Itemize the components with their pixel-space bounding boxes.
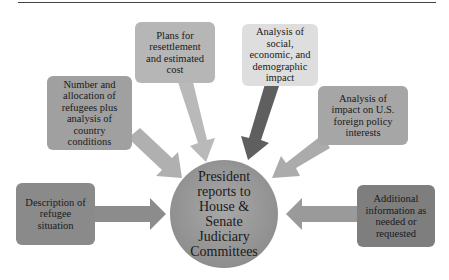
center-circle-line: President <box>190 169 258 184</box>
box-description-line: situation <box>25 220 85 232</box>
box-number-allocation: Number and allocation of refugees plus a… <box>47 76 132 150</box>
arrow-additional-info <box>286 198 358 230</box>
center-circle-line: Committees <box>190 244 258 259</box>
box-number-allocation-line: conditions <box>62 136 118 148</box>
box-social-economic-line: economic, and <box>249 49 310 61</box>
arrow-resettlement-plans <box>178 78 215 162</box>
center-circle-line: Senate <box>190 214 258 229</box>
arrow-description <box>95 198 166 230</box>
box-additional-info-line: Additional <box>366 193 427 205</box>
box-additional-info-line: information as <box>366 205 427 217</box>
box-number-allocation-line: Number and <box>62 79 118 91</box>
box-resettlement-plans: Plans for resettlement and estimated cos… <box>135 22 215 83</box>
box-foreign-policy-line: foreign policy <box>332 116 395 128</box>
box-number-allocation-line: analysis of <box>62 113 118 125</box>
arrow-social-economic <box>241 84 279 160</box>
box-number-allocation-line: allocation of <box>62 90 118 102</box>
box-resettlement-plans-line: cost <box>146 64 204 76</box>
box-number-allocation-line: country <box>62 125 118 137</box>
box-foreign-policy-line: Analysis of <box>332 93 395 105</box>
box-additional-info-line: needed or <box>366 216 427 228</box>
center-circle: President reports to House & Senate Judi… <box>170 160 278 268</box>
center-circle-line: Judiciary <box>190 229 258 244</box>
box-foreign-policy-line: interests <box>332 127 395 139</box>
center-circle-line: House & <box>190 199 258 214</box>
box-foreign-policy-line: impact on U.S. <box>332 104 395 116</box>
box-resettlement-plans-line: Plans for <box>146 30 204 42</box>
box-additional-info: Additional information as needed or requ… <box>357 185 435 247</box>
box-social-economic-line: impact <box>249 72 310 84</box>
box-additional-info-line: requested <box>366 228 427 240</box>
box-social-economic-line: Analysis of <box>249 26 310 38</box>
box-social-economic-line: demographic <box>249 61 310 73</box>
box-description-line: refugee <box>25 208 85 220</box>
box-number-allocation-line: refugees plus <box>62 102 118 114</box>
box-resettlement-plans-line: and estimated <box>146 53 204 65</box>
box-social-economic-line: social, <box>249 38 310 50</box>
box-foreign-policy: Analysis of impact on U.S. foreign polic… <box>318 86 408 145</box>
box-social-economic: Analysis of social, economic, and demogr… <box>242 24 318 86</box>
box-resettlement-plans-line: resettlement <box>146 41 204 53</box>
arrow-number-allocation <box>128 128 182 178</box>
box-description-line: Description of <box>25 197 85 209</box>
center-circle-line: reports to <box>190 184 258 199</box>
box-description: Description of refugee situation <box>16 183 95 245</box>
